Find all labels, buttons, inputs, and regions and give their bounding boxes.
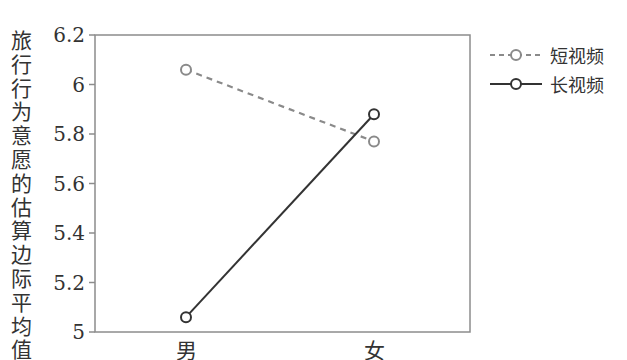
y-axis-title-char: 旅 bbox=[8, 30, 34, 54]
y-tick-label: 6.2 bbox=[53, 23, 85, 47]
dashed-line-circle-marker-icon bbox=[488, 48, 544, 62]
series-group bbox=[181, 65, 379, 323]
x-tick-label: 女 bbox=[364, 339, 385, 360]
y-tick-label: 5.4 bbox=[53, 221, 85, 245]
legend-label: 长视频 bbox=[550, 71, 604, 97]
y-axis-title-char: 均 bbox=[8, 316, 34, 340]
y-axis-title-char: 的 bbox=[8, 173, 34, 197]
y-axis-title-char: 愿 bbox=[8, 149, 34, 173]
y-axis-title-char: 算 bbox=[8, 220, 34, 244]
data-point-marker bbox=[181, 312, 191, 322]
y-axis-title-char: 行 bbox=[8, 54, 34, 78]
y-axis-title-char: 边 bbox=[8, 244, 34, 268]
legend: 短视频 长视频 bbox=[488, 40, 604, 98]
legend-item-short-video: 短视频 bbox=[488, 40, 604, 69]
data-point-marker bbox=[181, 65, 191, 75]
legend-label: 短视频 bbox=[550, 42, 604, 68]
data-point-marker bbox=[369, 136, 379, 146]
y-axis-title-char: 为 bbox=[8, 101, 34, 125]
y-axis-title-char: 值 bbox=[8, 339, 34, 360]
y-tick-label: 6 bbox=[72, 73, 85, 97]
y-axis-title-char: 估 bbox=[8, 197, 34, 221]
y-axis-title: 旅行行为意愿的估算边际平均值 bbox=[8, 30, 34, 360]
y-tick-label: 5.2 bbox=[53, 271, 85, 295]
y-tick-label: 5.8 bbox=[53, 122, 85, 146]
series-line-0 bbox=[186, 70, 374, 142]
y-axis: 55.25.45.65.866.2 bbox=[53, 23, 95, 344]
y-axis-title-char: 际 bbox=[8, 268, 34, 292]
solid-line-circle-marker-icon bbox=[488, 77, 544, 91]
series-line-1 bbox=[186, 114, 374, 317]
data-point-marker bbox=[369, 109, 379, 119]
x-axis: 男女 bbox=[176, 339, 385, 360]
y-tick-label: 5 bbox=[72, 320, 85, 344]
plot-frame bbox=[95, 35, 470, 332]
x-tick-label: 男 bbox=[176, 339, 197, 360]
y-tick-label: 5.6 bbox=[53, 172, 85, 196]
y-axis-title-char: 平 bbox=[8, 292, 34, 316]
y-axis-title-char: 意 bbox=[8, 125, 34, 149]
y-axis-title-char: 行 bbox=[8, 78, 34, 102]
legend-item-long-video: 长视频 bbox=[488, 69, 604, 98]
